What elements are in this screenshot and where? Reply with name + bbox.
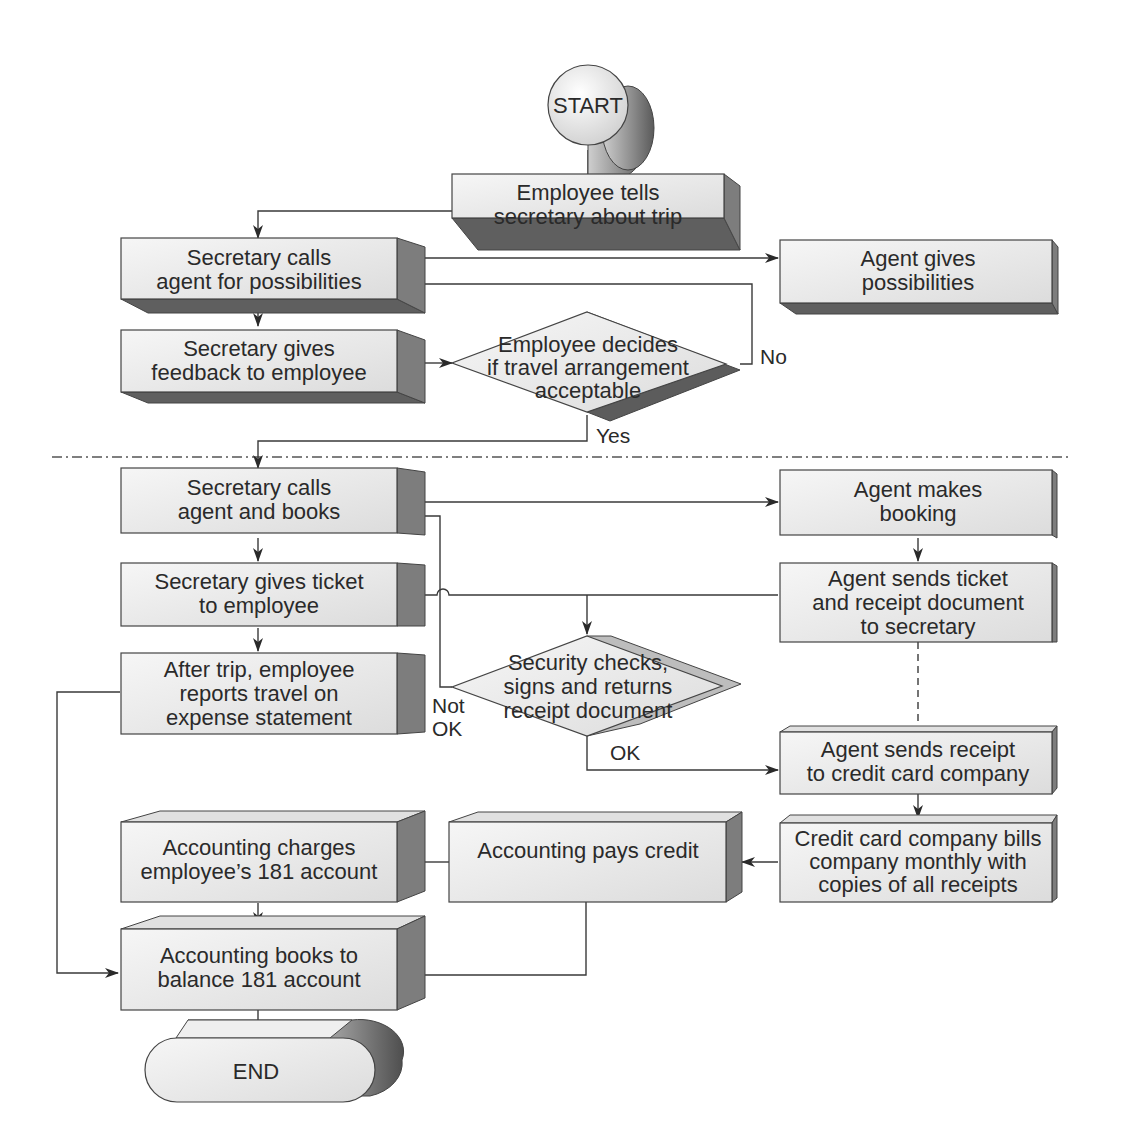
node-line: Secretary calls	[187, 475, 331, 500]
node-accounting-pays: Accounting pays credit	[449, 812, 742, 902]
node-line: booking	[879, 501, 956, 526]
node-line: After trip, employee	[164, 657, 355, 682]
node-line: Agent sends receipt	[821, 737, 1015, 762]
node-line: Accounting pays credit	[477, 838, 698, 863]
node-line: and receipt document	[812, 590, 1024, 615]
node-line: Employee decides	[498, 332, 678, 357]
node-secretary-feedback: Secretary gives feedback to employee	[121, 330, 425, 403]
node-line: company monthly with	[809, 849, 1027, 874]
node-secretary-calls-books: Secretary calls agent and books	[121, 468, 425, 535]
node-accounting-books: Accounting books to balance 181 account	[121, 916, 425, 1010]
node-line: Agent sends ticket	[828, 566, 1008, 591]
edge-label-not: Not	[432, 694, 465, 717]
node-agent-sends-ticket: Agent sends ticket and receipt document …	[780, 563, 1057, 642]
node-line: Credit card company bills	[795, 826, 1042, 851]
start-label: START	[553, 93, 623, 118]
node-line: signs and returns	[504, 674, 673, 699]
end-label: END	[233, 1059, 279, 1084]
edge-label-yes: Yes	[596, 424, 630, 447]
node-accounting-charges: Accounting charges employee’s 181 accoun…	[121, 811, 425, 902]
svg-text:secretary about trip: secretary about trip	[494, 204, 682, 229]
node-line: to employee	[199, 593, 319, 618]
node-agent-gives-possibilities: Agent gives possibilities	[780, 240, 1058, 314]
node-line: agent and books	[178, 499, 341, 524]
node-line: copies of all receipts	[818, 872, 1017, 897]
edge-label-ok: OK	[610, 741, 640, 764]
decision-employee-decides: Employee decides if travel arrangement a…	[452, 312, 740, 421]
node-credit-card-bills: Credit card company bills company monthl…	[780, 815, 1057, 902]
node-line: employee’s 181 account	[141, 859, 378, 884]
flowchart: START Employee tells secretary about tri…	[0, 0, 1121, 1147]
decision-security-checks: Security checks, signs and returns recei…	[452, 636, 741, 736]
node-line: Agent gives	[861, 246, 976, 271]
node-line: balance 181 account	[157, 967, 360, 992]
node-line: reports travel on	[180, 681, 339, 706]
node-secretary-calls-possibilities: Secretary calls agent for possibilities	[121, 238, 425, 313]
node-line: if travel arrangement	[487, 355, 689, 380]
end-node: END	[145, 1020, 404, 1102]
node-line: Accounting charges	[162, 835, 355, 860]
node-line: Employee tells	[516, 180, 659, 205]
node-line: possibilities	[862, 270, 975, 295]
node-employee-tells: Employee tells secretary about trip	[452, 174, 740, 250]
edge-label-not-ok: OK	[432, 717, 462, 740]
node-line: acceptable	[535, 378, 641, 403]
node-agent-sends-receipt: Agent sends receipt to credit card compa…	[780, 726, 1057, 794]
node-line: to credit card company	[807, 761, 1030, 786]
node-line: Secretary gives	[183, 336, 335, 361]
node-line: to secretary	[861, 614, 976, 639]
node-after-trip: After trip, employee reports travel on e…	[121, 653, 425, 734]
node-secretary-gives-ticket: Secretary gives ticket to employee	[121, 563, 425, 626]
edge-label-no: No	[760, 345, 787, 368]
start-node: START	[548, 65, 654, 181]
node-line: Secretary gives ticket	[154, 569, 363, 594]
node-agent-makes-booking: Agent makes booking	[780, 470, 1057, 538]
node-line: secretary about trip	[494, 204, 682, 229]
node-line: Security checks,	[508, 650, 668, 675]
node-line: expense statement	[166, 705, 352, 730]
node-line: feedback to employee	[151, 360, 366, 385]
svg-text:Employee tells: Employee tells	[516, 180, 659, 205]
node-line: receipt document	[504, 698, 673, 723]
node-line: Accounting books to	[160, 943, 358, 968]
node-line: agent for possibilities	[156, 269, 361, 294]
node-line: Agent makes	[854, 477, 982, 502]
node-line: Secretary calls	[187, 245, 331, 270]
